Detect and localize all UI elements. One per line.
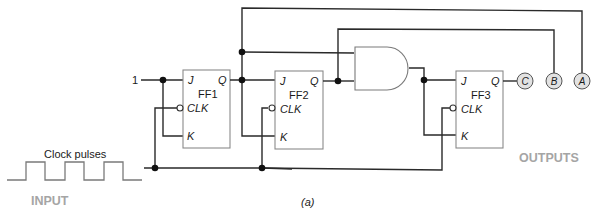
figure-label: (a) xyxy=(301,196,315,208)
ff2-clk-pin: CLK xyxy=(280,103,302,115)
ff3-clk-pin: CLK xyxy=(461,103,483,115)
ff1-j-pin: J xyxy=(187,74,194,86)
output-a-label: A xyxy=(578,76,586,87)
ff1-q-pin: Q xyxy=(218,74,227,86)
junction-dot xyxy=(160,77,167,84)
ff3-j-pin: J xyxy=(460,75,467,87)
output-b-label: B xyxy=(551,76,558,87)
and-output-wire xyxy=(409,68,456,80)
ff2-k-pin: K xyxy=(280,131,288,143)
ff1-k-pin: K xyxy=(187,130,195,142)
outputs-label: OUTPUTS xyxy=(519,151,579,165)
ff3-name: FF3 xyxy=(471,89,491,101)
clock-pulses-label: Clock pulses xyxy=(44,148,107,160)
and-input-a-wire xyxy=(242,52,354,53)
and-gate xyxy=(355,47,408,90)
ff3-k-pin: K xyxy=(461,130,469,142)
clock-pulse-waveform xyxy=(7,162,142,180)
junction-dot xyxy=(239,77,246,84)
junction-dot xyxy=(239,49,246,56)
input-label: INPUT xyxy=(31,194,69,208)
output-c-label: C xyxy=(521,76,529,87)
ff2-clk-inversion-bubble xyxy=(269,105,275,111)
ff1-clk-pin: CLK xyxy=(187,102,209,114)
junction-dot xyxy=(152,165,159,172)
ff3-clk-inversion-bubble xyxy=(450,105,456,111)
junction-dot xyxy=(335,78,342,85)
ff2-j-pin: J xyxy=(279,75,286,87)
constant-one-label: 1 xyxy=(132,74,138,86)
ff1-name: FF1 xyxy=(198,88,218,100)
ff1-clk-wire xyxy=(155,108,177,168)
ff1-clk-inversion-bubble xyxy=(177,105,183,111)
ff2-name: FF2 xyxy=(289,89,309,101)
ff2-q-pin: Q xyxy=(310,75,319,87)
output-a-bus xyxy=(242,8,582,80)
jk-counter-diagram: Clock pulses INPUT 1 J Q FF1 CLK K J Q F… xyxy=(0,0,592,218)
ff3-q-pin: Q xyxy=(491,75,500,87)
ff2-clk-wire xyxy=(262,108,268,168)
junction-dot xyxy=(259,165,266,172)
junction-dot xyxy=(421,77,428,84)
